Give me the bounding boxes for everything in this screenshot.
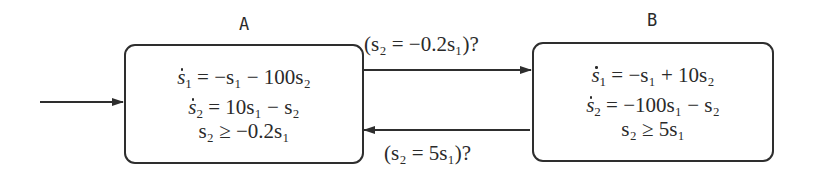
state-b-flow-1-rhs: = −s₁ + 10s₂	[611, 63, 714, 87]
state-b-flow-2: s2 = −100s₁ − s₂	[586, 93, 720, 117]
state-a-flow-1-var: s	[177, 65, 185, 89]
guard-b-to-a: (s₂ = 5s₁)?	[384, 141, 471, 166]
state-a-flow-1: s1 = −s₁ − 100s₂	[177, 65, 311, 89]
state-a-invariant: s₂ ≥ −0.2s₁	[198, 119, 289, 143]
state-a-flow-2-rhs: = 10s₁ − s₂	[208, 95, 299, 119]
state-b-flow-1-sub: 1	[600, 74, 607, 89]
state-b-flow-1: s1 = −s₁ + 10s₂	[591, 63, 714, 87]
state-a-label: A	[239, 14, 249, 34]
state-a-flow-2-var: s	[188, 95, 196, 119]
state-a-flow-1-sub: 1	[185, 76, 192, 91]
state-b-flow-2-var: s	[586, 93, 594, 117]
guard-a-to-b: (s₂ = −0.2s₁)?	[364, 32, 479, 57]
state-a-box: s1 = −s₁ − 100s₂ s2 = 10s₁ − s₂ s₂ ≥ −0.…	[124, 44, 364, 164]
state-b-label: B	[647, 10, 657, 30]
state-b-flow-2-sub: 2	[594, 104, 601, 119]
hybrid-automaton-diagram: A s1 = −s₁ − 100s₂ s2 = 10s₁ − s₂ s₂ ≥ −…	[0, 0, 813, 179]
state-a-flow-1-rhs: = −s₁ − 100s₂	[197, 65, 311, 89]
state-a-flow-2: s2 = 10s₁ − s₂	[188, 95, 299, 119]
state-b-flow-1-var: s	[591, 63, 599, 87]
state-b-invariant: s₂ ≥ 5s₁	[621, 117, 685, 141]
state-b-flow-2-rhs: = −100s₁ − s₂	[606, 93, 720, 117]
state-b-box: s1 = −s₁ + 10s₂ s2 = −100s₁ − s₂ s₂ ≥ 5s…	[532, 42, 774, 162]
